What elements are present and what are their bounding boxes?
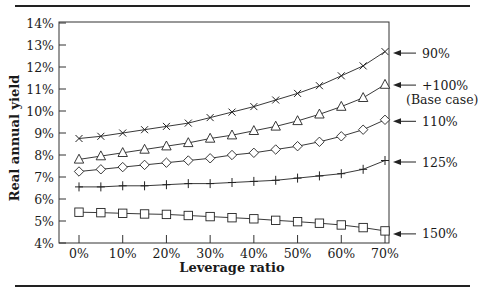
plus-marker-icon	[119, 181, 127, 190]
x-tick-label: 40%	[240, 246, 268, 261]
series-diamond	[74, 115, 389, 176]
plus-marker-icon	[97, 182, 105, 191]
plus-marker-icon	[294, 174, 302, 183]
diamond-marker-icon	[227, 150, 236, 159]
plus-marker-icon	[228, 178, 236, 187]
series-label: 125%	[422, 155, 458, 170]
diamond-marker-icon	[74, 167, 83, 176]
plus-marker-icon	[381, 156, 389, 165]
series-square	[75, 208, 389, 235]
y-tick-label: 10%	[26, 104, 54, 119]
square-marker-icon	[250, 215, 258, 223]
series-label: 110%	[422, 114, 458, 129]
x-tick-label: 50%	[284, 246, 312, 261]
series-labels: 90%+100%110%125%150%(Base case)	[393, 46, 478, 242]
triangle-marker-icon	[337, 101, 346, 110]
plus-marker-icon	[337, 169, 345, 178]
square-marker-icon	[119, 209, 127, 217]
x-tick-label: 20%	[153, 246, 181, 261]
arrow-left-icon	[393, 231, 401, 237]
plot-frame	[59, 22, 389, 243]
plus-marker-icon	[250, 177, 258, 186]
square-marker-icon	[293, 217, 301, 225]
arrow-left-icon	[393, 118, 401, 124]
plus-marker-icon	[206, 179, 214, 188]
series-label: 150%	[422, 226, 458, 241]
y-tick-label: 5%	[34, 214, 54, 229]
x-marker-icon	[316, 82, 323, 89]
diamond-marker-icon	[205, 154, 214, 163]
series-group	[74, 48, 389, 235]
square-marker-icon	[359, 223, 367, 231]
plus-marker-icon	[315, 171, 323, 180]
square-marker-icon	[206, 212, 214, 220]
square-marker-icon	[140, 210, 148, 218]
y-tick-label: 9%	[34, 126, 54, 141]
series-label: +100%	[422, 78, 468, 93]
series-plus	[75, 156, 389, 191]
y-tick-label: 14%	[26, 16, 54, 31]
x-marker-icon	[207, 114, 214, 121]
diamond-marker-icon	[358, 125, 367, 134]
series-line	[79, 52, 385, 139]
x-tick-label: 10%	[109, 246, 137, 261]
series-line	[79, 120, 385, 172]
x-marker-icon	[360, 62, 367, 69]
square-marker-icon	[162, 210, 170, 218]
series-x	[76, 48, 389, 142]
y-tick-label: 11%	[26, 82, 54, 97]
x-axis-title: Leverage ratio	[179, 260, 285, 275]
arrow-left-icon	[393, 82, 401, 88]
x-marker-icon	[382, 48, 389, 55]
square-marker-icon	[381, 227, 389, 235]
diamond-marker-icon	[380, 115, 389, 124]
series-line	[79, 85, 385, 160]
plus-marker-icon	[359, 165, 367, 174]
square-marker-icon	[337, 221, 345, 229]
x-marker-icon	[272, 97, 279, 104]
square-marker-icon	[184, 211, 192, 219]
x-marker-icon	[229, 109, 236, 116]
y-tick-label: 13%	[26, 38, 54, 53]
arrow-left-icon	[393, 159, 401, 165]
x-marker-icon	[338, 72, 345, 79]
square-marker-icon	[75, 208, 83, 216]
diamond-marker-icon	[96, 165, 105, 174]
y-tick-label: 6%	[34, 192, 54, 207]
diamond-marker-icon	[249, 148, 258, 157]
x-marker-icon	[294, 90, 301, 97]
triangle-marker-icon	[380, 79, 389, 88]
plus-marker-icon	[141, 181, 149, 190]
x-tick-label: 70%	[371, 246, 399, 261]
plus-marker-icon	[272, 176, 280, 185]
diamond-marker-icon	[162, 158, 171, 167]
diamond-marker-icon	[293, 142, 302, 151]
square-marker-icon	[228, 214, 236, 222]
arrow-left-icon	[393, 50, 401, 56]
plus-marker-icon	[184, 179, 192, 188]
x-tick-label: 30%	[196, 246, 224, 261]
y-axis-title: Real annual yield	[7, 75, 22, 201]
x-tick-label: 0%	[69, 246, 89, 261]
y-tick-label: 12%	[26, 60, 54, 75]
x-tick-label: 60%	[327, 246, 355, 261]
yield-chart: 4%5%6%7%8%9%10%11%12%13%14%0%10%20%30%40…	[0, 0, 485, 293]
square-marker-icon	[97, 208, 105, 216]
diamond-marker-icon	[140, 160, 149, 169]
diamond-marker-icon	[184, 156, 193, 165]
y-tick-label: 7%	[34, 170, 54, 185]
y-tick-label: 4%	[34, 236, 54, 251]
triangle-marker-icon	[358, 93, 367, 102]
diamond-marker-icon	[315, 137, 324, 146]
diamond-marker-icon	[118, 162, 127, 171]
series-label-base-case: (Base case)	[406, 92, 478, 107]
square-marker-icon	[272, 216, 280, 224]
diamond-marker-icon	[271, 145, 280, 154]
x-marker-icon	[250, 103, 257, 110]
series-label: 90%	[422, 46, 450, 61]
plus-marker-icon	[162, 180, 170, 189]
diamond-marker-icon	[337, 132, 346, 141]
plus-marker-icon	[75, 182, 83, 191]
square-marker-icon	[315, 219, 323, 227]
y-tick-label: 8%	[34, 148, 54, 163]
